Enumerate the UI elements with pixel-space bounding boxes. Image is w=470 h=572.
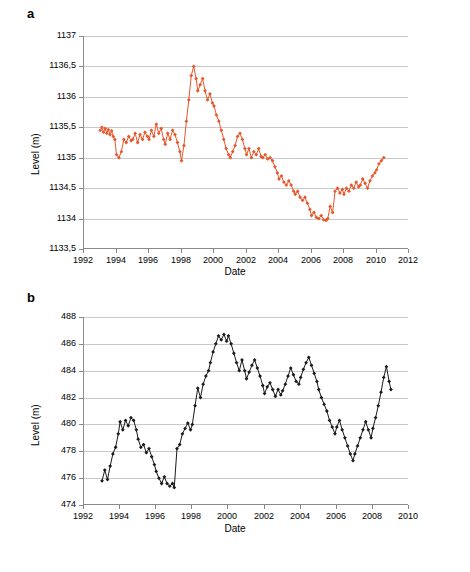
- data-point-marker: [375, 168, 379, 172]
- data-point-marker: [247, 370, 251, 374]
- y-tick-label: 478: [61, 445, 76, 455]
- data-point-marker: [154, 122, 158, 126]
- data-point-marker: [163, 142, 167, 146]
- data-point-marker: [103, 127, 107, 131]
- x-tick-mark: [264, 505, 265, 509]
- data-line: [102, 334, 391, 487]
- x-tick-label: 1992: [67, 255, 99, 265]
- x-tick-mark: [155, 505, 156, 509]
- data-point-marker: [204, 374, 208, 378]
- x-tick-label: 2000: [197, 255, 229, 265]
- data-point-marker: [245, 153, 249, 157]
- data-point-marker: [271, 388, 275, 392]
- x-tick-mark: [376, 249, 377, 253]
- y-tick-label: 1136: [57, 91, 76, 101]
- x-tick-label: 1992: [67, 511, 99, 521]
- data-point-marker: [176, 141, 180, 145]
- data-point-marker: [361, 428, 365, 432]
- data-point-marker: [263, 392, 267, 396]
- data-point-marker: [245, 377, 249, 381]
- data-point-marker: [374, 416, 378, 420]
- y-tick-label: 476: [61, 472, 76, 482]
- data-point-marker: [106, 128, 110, 132]
- data-point-marker: [116, 432, 120, 436]
- y-tick-label: 1135: [57, 152, 76, 162]
- data-point-marker: [356, 444, 360, 448]
- data-point-marker: [237, 369, 241, 373]
- data-point-marker: [211, 350, 215, 354]
- panel-label-a: a: [27, 6, 34, 21]
- y-tick-mark: [79, 478, 83, 479]
- x-tick-mark: [343, 249, 344, 253]
- x-axis-title-b-text: Date: [224, 523, 245, 534]
- data-point-marker: [106, 478, 110, 482]
- data-point-marker: [105, 131, 109, 135]
- plot-area-a: [83, 36, 408, 249]
- data-point-marker: [126, 424, 130, 428]
- data-point-marker: [138, 133, 142, 137]
- data-point-marker: [257, 147, 261, 151]
- data-point-marker: [275, 171, 279, 175]
- data-point-marker: [253, 358, 257, 362]
- data-point-marker: [224, 147, 228, 151]
- series-line: [84, 36, 409, 249]
- data-point-marker: [154, 470, 158, 474]
- data-point-marker: [180, 159, 184, 163]
- x-tick-label: 1996: [132, 255, 164, 265]
- data-point-marker: [160, 482, 164, 486]
- data-point-marker: [273, 394, 277, 398]
- data-point-marker: [219, 128, 223, 132]
- data-point-marker: [134, 428, 138, 432]
- series-line: [84, 317, 409, 505]
- data-point-marker: [187, 98, 191, 102]
- x-tick-mark: [227, 505, 228, 509]
- y-tick-label: 1133,5: [49, 243, 76, 253]
- data-point-marker: [201, 382, 205, 386]
- data-point-marker: [276, 388, 280, 392]
- data-point-marker: [183, 427, 187, 431]
- data-point-marker: [376, 404, 380, 408]
- data-point-marker: [108, 133, 112, 137]
- data-point-marker: [235, 361, 239, 365]
- y-tick-label: 482: [61, 392, 76, 402]
- plot-area-b: [83, 317, 408, 505]
- data-point-marker: [243, 369, 247, 373]
- data-point-marker: [212, 104, 216, 108]
- data-point-marker: [114, 445, 118, 449]
- x-tick-mark: [408, 249, 409, 253]
- data-point-marker: [243, 147, 247, 151]
- x-tick-mark: [246, 249, 247, 253]
- data-point-marker: [317, 388, 321, 392]
- data-point-marker: [331, 211, 335, 215]
- data-point-marker: [110, 129, 114, 133]
- data-point-marker: [208, 361, 212, 365]
- x-tick-label: 1994: [100, 255, 132, 265]
- y-tick-mark: [79, 424, 83, 425]
- data-point-marker: [330, 425, 334, 429]
- data-point-marker: [136, 141, 140, 145]
- y-tick-mark: [79, 97, 83, 98]
- data-point-marker: [227, 334, 231, 338]
- data-point-marker: [196, 386, 200, 390]
- data-point-marker: [119, 150, 123, 154]
- y-tick-label: 488: [61, 311, 76, 321]
- x-tick-label: 1996: [139, 511, 171, 521]
- data-point-marker: [118, 420, 122, 424]
- data-point-marker: [217, 119, 221, 123]
- data-point-marker: [184, 119, 188, 123]
- y-tick-mark: [79, 371, 83, 372]
- x-tick-mark: [119, 505, 120, 509]
- data-point-marker: [281, 389, 285, 393]
- y-tick-mark: [79, 398, 83, 399]
- data-point-marker: [102, 130, 106, 134]
- data-point-marker: [258, 374, 262, 378]
- data-point-marker: [368, 179, 372, 183]
- data-point-marker: [166, 131, 170, 135]
- data-point-marker: [351, 459, 355, 463]
- x-tick-mark: [116, 249, 117, 253]
- data-point-marker: [190, 423, 194, 427]
- data-point-marker: [286, 374, 290, 378]
- data-point-marker: [250, 363, 254, 367]
- data-point-marker: [312, 372, 316, 376]
- data-point-marker: [207, 369, 211, 373]
